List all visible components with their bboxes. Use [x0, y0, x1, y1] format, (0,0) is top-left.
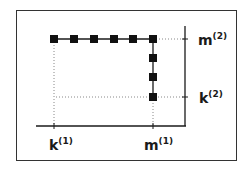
label-k1: k(1): [49, 136, 73, 153]
marker: [149, 35, 157, 43]
marker: [90, 35, 98, 43]
marker: [149, 73, 157, 81]
label-k2: k(2): [199, 89, 223, 106]
marker: [50, 35, 58, 43]
label-m1: m(1): [144, 136, 173, 153]
marker: [149, 54, 157, 62]
marker: [110, 35, 118, 43]
label-m2: m(2): [198, 31, 227, 48]
marker: [70, 35, 78, 43]
marker: [129, 35, 137, 43]
lattice-diagram: k(1) m(1) m(2) k(2): [0, 0, 250, 171]
marker: [149, 93, 157, 101]
